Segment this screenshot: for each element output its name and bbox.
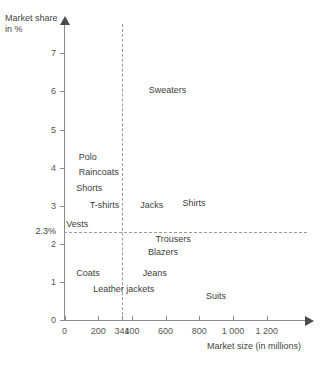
data-point-label: Jacks [140,200,163,211]
data-point-label: Suits [206,291,226,302]
y-axis-tick-label: 0 [26,315,56,325]
data-point-label: Shirts [182,198,205,209]
data-point-label: Leather jackets [93,284,154,295]
x-axis-tick-label: 400 [124,326,139,337]
scatter-chart: 2.3% Market share in % Market size (in m… [0,0,325,368]
vertical-threshold-line [122,24,123,320]
data-point-label: Raincoats [79,167,119,178]
x-axis-title: Market size (in millions) [207,341,301,352]
y-axis-tick [60,244,65,245]
y-axis-tick-label: 6 [26,86,56,96]
y-axis-title-line2: in % [5,24,23,34]
y-axis-tick [60,282,65,283]
y-axis-title: Market share in % [5,13,61,35]
data-point-label: Vests [66,219,88,230]
x-axis-tick-label: 1 200 [255,326,278,337]
y-axis-tick-label: 5 [26,125,56,135]
data-point-label: T-shirts [90,200,120,211]
y-axis-tick [60,130,65,131]
x-axis-tick [122,316,123,321]
x-axis-tick-label: 0 [62,326,67,337]
x-axis-tick-label: 1 000 [222,326,245,337]
data-point-label: Sweaters [149,85,187,96]
x-axis-tick [98,316,99,321]
x-axis-arrow-icon [305,316,314,326]
x-axis-tick [233,316,234,321]
y-axis-tick-label: 2 [26,239,56,249]
x-axis-line [64,320,307,321]
y-axis-tick-label: 4 [26,163,56,173]
y-axis-tick [60,91,65,92]
horizontal-threshold-line [64,232,307,233]
y-axis-tick [60,320,65,321]
y-axis-title-line1: Market share [5,13,58,23]
y-axis-tick [60,168,65,169]
y-axis-arrow-icon [60,16,70,25]
x-axis-tick-label: 800 [192,326,207,337]
y-axis-tick-label: 3 [26,201,56,211]
threshold-value-label: 2.3% [22,226,56,236]
data-point-label: Coats [76,268,100,279]
x-axis-tick [132,316,133,321]
x-axis-tick [199,316,200,321]
data-point-label: Polo [79,152,97,163]
y-axis-tick-label: 1 [26,277,56,287]
y-axis-tick-label: 7 [26,48,56,58]
y-axis-tick [60,206,65,207]
x-axis-tick-label: 600 [158,326,173,337]
x-axis-tick-label: 200 [91,326,106,337]
y-axis-line [64,24,65,321]
data-point-label: Trousers [155,234,190,245]
data-point-label: Blazers [148,247,178,258]
data-point-label: Jeans [143,268,167,279]
data-point-label: Shorts [76,183,102,194]
x-axis-tick [267,316,268,321]
y-axis-tick [60,53,65,54]
x-axis-tick [166,316,167,321]
